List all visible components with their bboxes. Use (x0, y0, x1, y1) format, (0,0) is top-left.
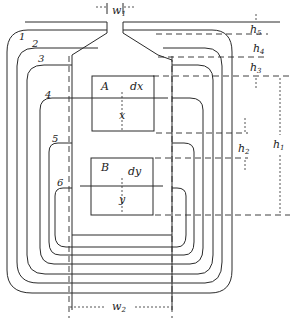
reference-lines (69, 34, 290, 318)
coil-label-2: 2 (31, 38, 38, 49)
coils (7, 30, 232, 293)
label-h2: h2 (238, 142, 250, 156)
label-h5: h5 (250, 23, 262, 37)
coil-label-1: 1 (19, 31, 25, 42)
coil-4 (40, 98, 203, 264)
coil-label-4: 4 (44, 89, 51, 100)
region-b (80, 158, 163, 215)
coil-label-5: 5 (52, 133, 58, 144)
coil-2 (17, 48, 222, 283)
coil-label-6: 6 (57, 177, 64, 188)
coil-label-3: 3 (38, 53, 44, 64)
dim-w2: w2 (70, 300, 171, 314)
winding-diagram: w1 w2 h5 h4 h3 h2 h1 A B dx dy x y 1 2 3… (0, 0, 291, 320)
label-h1: h1 (273, 138, 285, 152)
label-region-a: A (100, 80, 109, 93)
label-w1: w1 (112, 4, 126, 18)
label-x: x (119, 109, 126, 122)
dim-h-stack: h5 h4 h3 h2 h1 (238, 14, 285, 213)
label-dy: dy (128, 165, 142, 178)
label-h3: h3 (250, 61, 262, 75)
region-a (72, 76, 168, 131)
dim-w1: w1 (96, 3, 134, 18)
label-dx: dx (130, 80, 144, 93)
label-h4: h4 (253, 42, 265, 56)
label-region-b: B (100, 161, 109, 174)
label-w2: w2 (112, 300, 126, 314)
